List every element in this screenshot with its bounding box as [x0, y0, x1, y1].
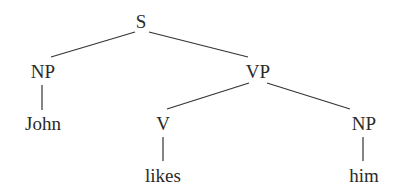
node-np-subject: NP — [31, 62, 55, 81]
node-v: V — [156, 114, 170, 133]
node-vp: VP — [246, 62, 270, 81]
node-likes: likes — [145, 166, 181, 185]
node-him: him — [349, 166, 379, 185]
edge-s-np — [51, 32, 135, 57]
node-s: S — [136, 12, 147, 31]
edge-vp-v — [167, 83, 249, 109]
syntax-tree: S NP VP John V NP likes him — [0, 0, 404, 195]
node-np-object: NP — [352, 114, 376, 133]
tree-edges — [0, 0, 404, 195]
edge-s-vp — [149, 32, 248, 57]
edge-vp-np — [267, 83, 350, 109]
node-john: John — [25, 114, 61, 133]
